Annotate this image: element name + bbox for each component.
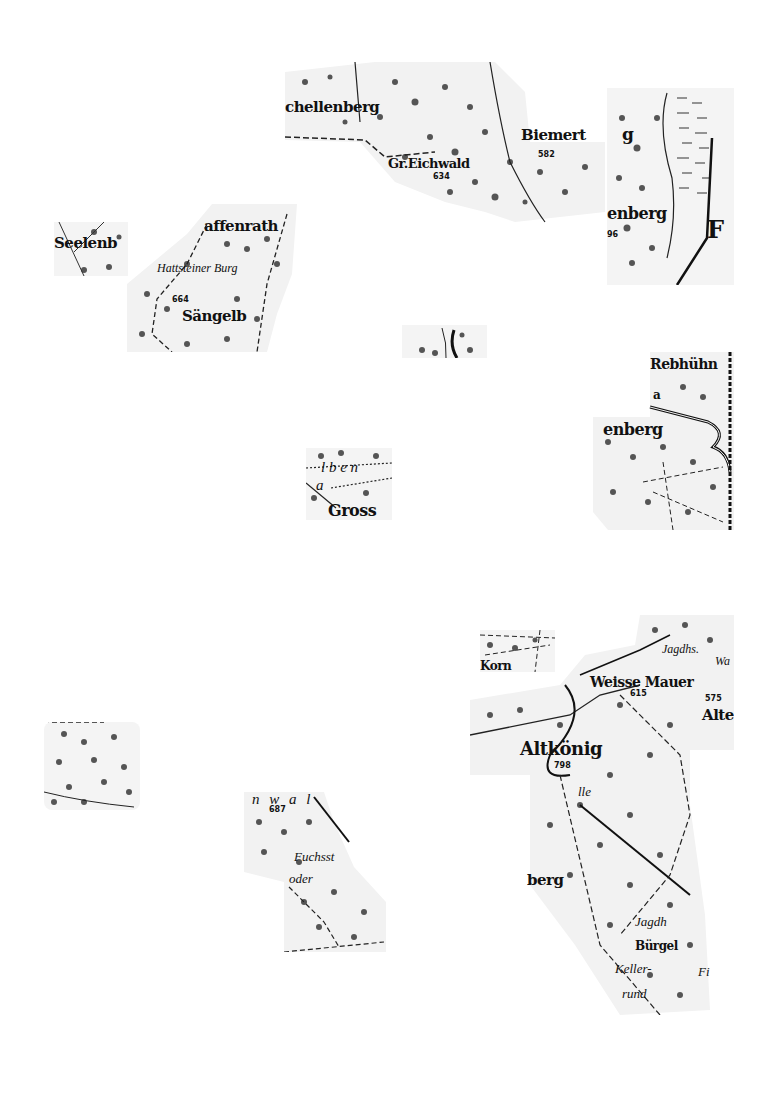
forest-stipple — [402, 325, 487, 358]
map-fragment-rebhuehner: Rebhühn a enberg — [593, 352, 734, 530]
map-fragment-small — [402, 325, 487, 358]
place-label: Jagdhs. — [662, 643, 699, 655]
map-fragment-seelenberg: Seelenb — [54, 222, 128, 276]
place-label: lle — [578, 785, 591, 798]
elevation-label: 582 — [538, 151, 555, 159]
forest-stipple — [593, 352, 734, 530]
map-fragment-altkoenig: Jagdhs. Wa Weisse Mauer 615 575 Alte Alt… — [470, 615, 734, 1015]
elevation-label: 664 — [172, 296, 189, 304]
place-label: Jagdh — [635, 915, 667, 928]
place-label: Fi — [698, 965, 710, 978]
place-label: l b e n — [321, 460, 358, 475]
place-label: affenrath — [204, 219, 278, 234]
place-label: Seelenb — [54, 236, 117, 251]
place-label: Alte — [702, 708, 734, 723]
map-fragment-hattstein: affenrath Hattsteiner Burg 664 Sängelb — [127, 204, 297, 352]
place-label: Sängelb — [182, 309, 246, 324]
elevation-label: 634 — [433, 173, 450, 181]
forest-stipple — [244, 792, 386, 952]
place-label: oder — [289, 872, 313, 885]
place-label: rund — [622, 987, 647, 1000]
place-label: Bürgel — [635, 940, 678, 952]
place-label: enberg — [603, 422, 663, 438]
elevation-label: 96 — [607, 231, 618, 239]
elevation-label: 798 — [554, 762, 571, 770]
place-label: F — [707, 218, 724, 242]
place-label: Fuchsst — [294, 850, 334, 863]
place-label: Rebhühn — [650, 357, 718, 371]
elevation-label: 687 — [269, 806, 286, 814]
map-fragment-fuchsstein: n w a l 687 Fuchsst oder — [244, 792, 386, 952]
place-label: chellenberg — [285, 100, 379, 115]
elevation-label: 615 — [630, 690, 647, 698]
map-fragment-eichwald: chellenberg Gr.Eichwald 634 Biemert 582 — [285, 62, 605, 227]
map-fragment-marsh: g enberg 96 F — [607, 88, 734, 285]
map-fragment-forest-left — [44, 722, 140, 810]
place-label: Weisse Mauer — [590, 675, 693, 689]
place-label: Keller- — [615, 962, 652, 975]
place-label: Altkönig — [520, 740, 602, 758]
place-label: Wa — [715, 655, 730, 667]
place-label: a — [316, 478, 324, 493]
elevation-label: 575 — [705, 695, 722, 703]
place-label: berg — [527, 873, 563, 888]
place-label: Hattsteiner Burg — [157, 262, 238, 274]
marsh-hatching — [607, 88, 734, 285]
place-label: enberg — [607, 206, 667, 222]
forest-stipple — [285, 62, 605, 227]
place-label: Gross — [328, 503, 376, 519]
place-label: Gr.Eichwald — [388, 157, 470, 170]
map-fragment-gross: l b e n a Gross — [306, 448, 392, 520]
place-label: g — [622, 126, 633, 143]
place-label: Biemert — [521, 128, 586, 143]
place-label: a — [653, 389, 660, 401]
forest-stipple — [44, 722, 140, 810]
